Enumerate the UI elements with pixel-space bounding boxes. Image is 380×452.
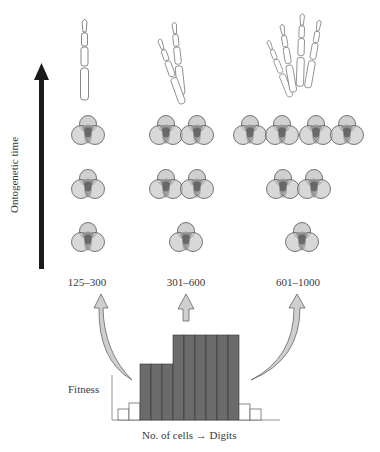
fitness-histogram [112,335,280,420]
cell-condensation-icon [266,116,299,145]
digit-skeleton-icon [265,14,323,98]
cell-condensation-icon [267,170,300,199]
cell-condensation-icon [331,116,364,145]
up-arrow-time-icon [34,63,49,269]
digit-skeleton-icon [156,22,186,105]
cell-condensation-icon [150,170,183,199]
condensation-row-bottom [72,223,319,252]
x-axis-label-left: No. of cells [142,429,193,441]
range-label-2: 301–600 [167,276,206,288]
cell-condensation-icon [286,223,319,252]
range-label-1: 125–300 [68,276,107,288]
cell-condensation-icon [234,116,267,145]
cell-condensation-icon [181,116,214,145]
fitness-axis-label: Fitness [68,383,99,395]
condensation-row-middle [72,170,331,199]
cell-condensation-icon [181,170,214,199]
x-axis-label-right: Digits [210,429,237,441]
digit-evolution-diagram [0,0,380,452]
cell-condensation-icon [170,223,203,252]
curved-arrow-icon [251,294,305,380]
curved-arrow-icon [94,294,132,380]
range-label-3: 601–1000 [276,276,320,288]
time-axis-label: Ontogenetic time [8,137,20,213]
cell-condensation-icon [150,116,183,145]
cell-condensation-icon [72,223,105,252]
cell-condensation-icon [72,170,105,199]
right-arrow-icon: → [196,429,207,441]
cell-condensation-icon [298,170,331,199]
cell-condensation-icon [300,116,333,145]
digit-skeleton-icon [81,20,89,101]
x-axis-label: No. of cells → Digits [142,429,236,441]
condensation-row-top [72,116,364,145]
cell-condensation-icon [72,116,105,145]
straight-arrow-icon [178,294,194,321]
